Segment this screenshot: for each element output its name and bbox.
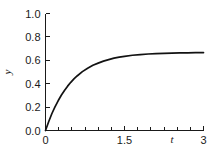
y-tick-label: 0.0 (25, 125, 40, 137)
y-axis-title: y (1, 69, 13, 75)
x-tick-label: 3 (200, 134, 206, 146)
chart-figure: 0.00.20.40.60.81.0 01.53 y t (0, 0, 216, 152)
x-tick-label: 1.5 (117, 134, 132, 146)
y-tick-label: 0.6 (25, 54, 40, 66)
y-tick-label: 0.2 (25, 101, 40, 113)
x-tick-label: 0 (42, 134, 48, 146)
y-tick-label: 1.0 (25, 8, 40, 20)
y-tick-label: 0.4 (25, 78, 40, 90)
line-chart: 0.00.20.40.60.81.0 01.53 y t (0, 0, 216, 152)
y-tick-label: 0.8 (25, 31, 40, 43)
